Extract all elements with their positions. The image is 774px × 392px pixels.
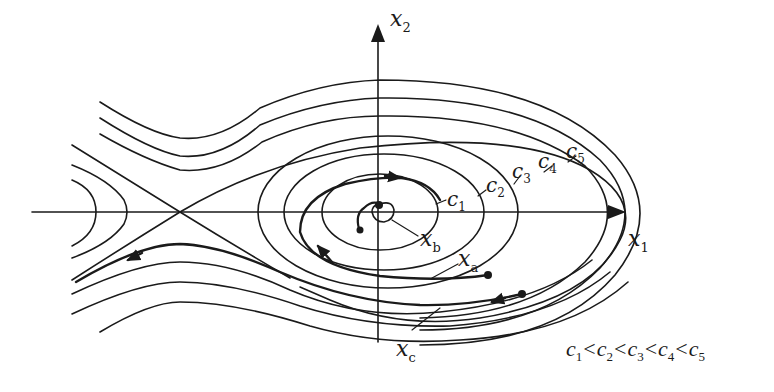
xb-leader: [392, 220, 418, 236]
x1-axis-label: x1: [628, 226, 649, 255]
trajectory-label-xa: xa: [458, 246, 478, 275]
level-curve-label-c3: c3: [512, 159, 531, 186]
trajectory-xb-start-point: [357, 227, 364, 234]
trajectory-xa-start-point: [484, 271, 492, 279]
trajectory-label-xc: xc: [396, 336, 416, 365]
level-curve-label-c1: c1: [447, 187, 466, 214]
level-curve-label-c2: c2: [486, 173, 505, 200]
trajectory-xc-start-point: [518, 290, 526, 298]
x2-axis-label: x2: [390, 6, 411, 35]
level-curve-label-c4: c4: [538, 149, 557, 176]
x2-axis-arrow-icon: [371, 24, 385, 42]
trajectory-label-xb: xb: [420, 226, 441, 255]
phase-portrait-diagram: x2 x1 c1 c2 c3 c4 c5 xb xa xc: [0, 0, 774, 392]
level-inequality: c1<c2<c3<c4<c5: [566, 336, 705, 365]
equilibrium-point: [375, 201, 383, 209]
xa-leader: [432, 264, 458, 278]
level-curve-label-c5: c5: [566, 139, 585, 166]
